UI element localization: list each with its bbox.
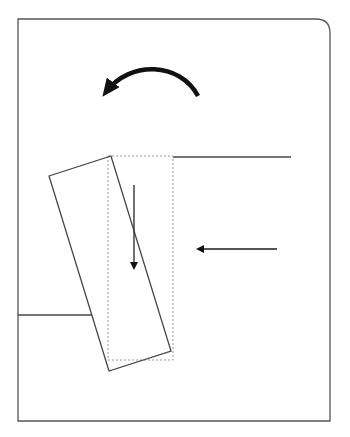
diagram-canvas	[0, 0, 350, 437]
rotation-arrow-icon	[106, 69, 198, 96]
frame-outline	[18, 19, 330, 421]
slot-outline-dotted	[108, 156, 173, 360]
rotated-block	[49, 156, 171, 371]
